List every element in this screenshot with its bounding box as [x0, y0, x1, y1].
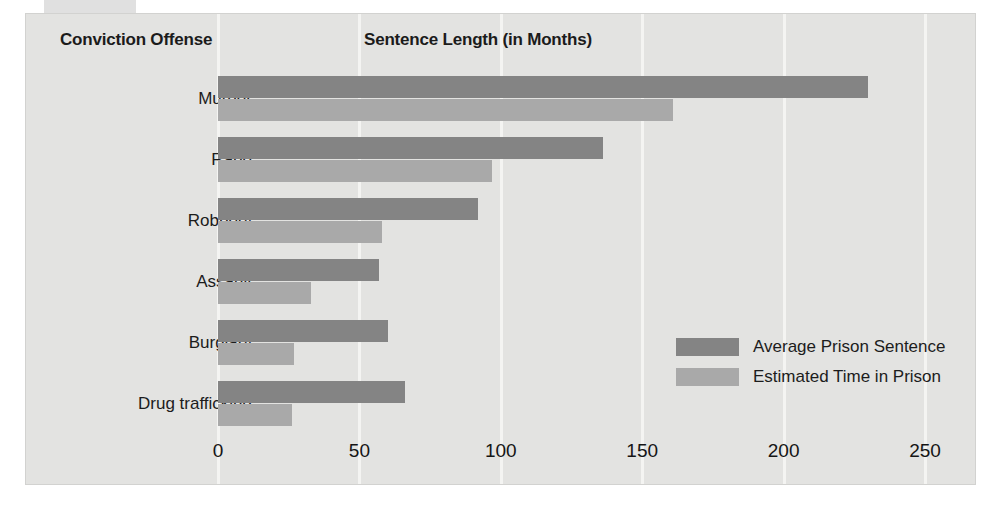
bar-assault-series-2: [218, 282, 311, 304]
chart-row: Robbery: [26, 190, 975, 251]
x-tick-label-0: 0: [213, 440, 224, 462]
column-header-conviction-offense: Conviction Offense: [60, 30, 212, 50]
legend-item-1: Average Prison Sentence: [676, 332, 945, 362]
chart-row: Assault: [26, 251, 975, 312]
column-header-sentence-length: Sentence Length (in Months): [364, 30, 592, 50]
chart-header-row: Conviction Offense Sentence Length (in M…: [26, 14, 975, 68]
bar-burglary-series-1: [218, 320, 388, 342]
legend-label-2: Estimated Time in Prison: [753, 367, 941, 387]
legend-swatch-1: [676, 338, 739, 356]
legend-item-2: Estimated Time in Prison: [676, 362, 945, 392]
chart-legend: Average Prison SentenceEstimated Time in…: [676, 332, 945, 392]
x-tick-label-150: 150: [626, 440, 658, 462]
chart-row: Rape: [26, 129, 975, 190]
legend-swatch-2: [676, 368, 739, 386]
bar-burglary-series-2: [218, 343, 294, 365]
chart-panel: Conviction Offense Sentence Length (in M…: [26, 14, 975, 484]
chart-row: Murder: [26, 68, 975, 129]
bar-assault-series-1: [218, 259, 379, 281]
bar-rape-series-2: [218, 160, 492, 182]
legend-label-1: Average Prison Sentence: [753, 337, 945, 357]
bar-murder-series-2: [218, 99, 673, 121]
x-axis: 050100150200250: [26, 434, 975, 484]
bar-rape-series-1: [218, 137, 603, 159]
bar-murder-series-1: [218, 76, 868, 98]
bar-robbery-series-2: [218, 221, 382, 243]
x-tick-label-250: 250: [909, 440, 941, 462]
x-tick-label-200: 200: [768, 440, 800, 462]
bar-drug-trafficking-series-1: [218, 381, 405, 403]
bar-robbery-series-1: [218, 198, 478, 220]
x-tick-label-50: 50: [349, 440, 370, 462]
x-tick-label-100: 100: [485, 440, 517, 462]
bar-drug-trafficking-series-2: [218, 404, 292, 426]
